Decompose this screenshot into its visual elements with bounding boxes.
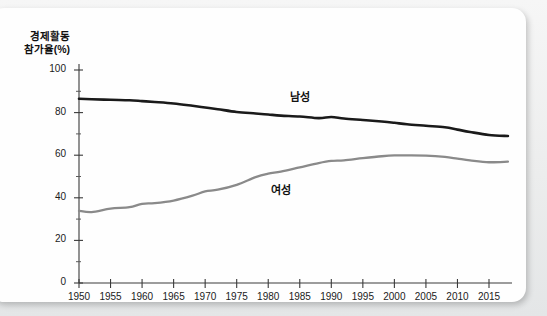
y-tick-label: 40 — [40, 191, 66, 202]
chart-plot-area: 경제활동 참가율(%) 020406080100 195019551960196… — [0, 0, 547, 316]
chart-svg — [0, 0, 547, 316]
y-tick-label: 0 — [40, 276, 66, 287]
series-line-여성 — [79, 155, 508, 212]
series-label-남성: 남성 — [290, 88, 310, 104]
x-tick-label: 2015 — [469, 291, 509, 302]
y-tick-label: 100 — [40, 63, 66, 74]
chart-screenshot: 경제활동 참가율(%) 020406080100 195019551960196… — [0, 0, 547, 316]
series-line-남성 — [79, 99, 508, 136]
y-tick-label: 60 — [40, 148, 66, 159]
y-tick-label: 20 — [40, 233, 66, 244]
series-label-여성: 여성 — [271, 181, 291, 197]
chart-series-group — [79, 99, 508, 212]
y-tick-label: 80 — [40, 106, 66, 117]
